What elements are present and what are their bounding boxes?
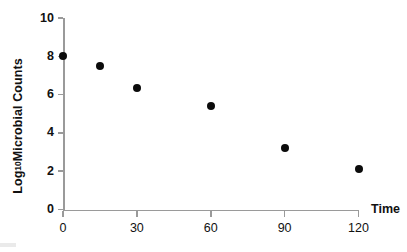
y-axis-tick <box>58 132 64 134</box>
data-point <box>133 84 141 92</box>
y-axis-tick-label-text: 10 <box>20 12 54 25</box>
y-axis-label-suffix: Microbial Counts <box>11 58 25 161</box>
y-axis-tick <box>58 94 64 96</box>
x-axis-label: Time <box>371 202 400 216</box>
y-axis-tick-label: 6 <box>20 88 54 101</box>
y-axis-tick-label-text: 0 <box>20 203 54 216</box>
y-axis-tick-label-text: 2 <box>20 165 54 178</box>
scan-artifact <box>0 243 16 247</box>
x-axis-tick-label: 120 <box>339 222 379 235</box>
x-axis-tick-label: 0 <box>43 222 83 235</box>
data-point <box>355 165 363 173</box>
x-axis-tick <box>136 211 138 217</box>
y-axis-tick-label-text: 4 <box>20 126 54 139</box>
x-axis-tick <box>284 211 286 217</box>
y-axis-tick <box>58 170 64 172</box>
data-point <box>207 102 215 110</box>
x-axis-tick-label: 60 <box>191 222 231 235</box>
x-axis-tick <box>210 211 212 217</box>
x-axis-tick-label: 30 <box>117 222 157 235</box>
chart-figure: Log10 Microbial Counts Time 024681003060… <box>0 0 407 252</box>
y-axis-tick-label: 4 <box>20 126 54 139</box>
y-axis-tick-label-text: 6 <box>20 88 54 101</box>
y-axis-tick-label: 8 <box>20 50 54 63</box>
x-axis-tick-label: 90 <box>265 222 305 235</box>
data-point <box>59 52 67 60</box>
data-point <box>96 62 104 70</box>
data-point <box>281 144 289 152</box>
y-axis-tick-label: 0 <box>20 203 54 216</box>
y-axis-tick-label: 10 <box>20 12 54 25</box>
x-axis-tick <box>62 211 64 217</box>
y-axis-tick-label-text: 8 <box>20 50 54 63</box>
y-axis-tick-label: 2 <box>20 165 54 178</box>
x-axis-tick <box>358 211 360 217</box>
y-axis-line <box>63 18 65 211</box>
y-axis-tick <box>58 17 64 19</box>
